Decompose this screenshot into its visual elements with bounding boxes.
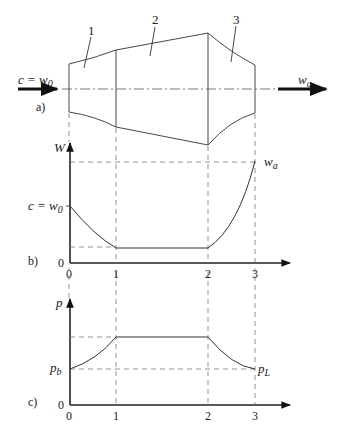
c-origin-label: 0 — [58, 398, 64, 412]
inlet-velocity-label: c = w0 — [18, 72, 53, 89]
section-label-2: 2 — [152, 12, 159, 27]
b-tick-3: 3 — [252, 267, 258, 281]
projection-lines — [69, 113, 255, 405]
wa-label: wa — [264, 154, 278, 171]
b-origin-label: 0 — [58, 256, 64, 270]
c-tick-0: 0 — [66, 409, 72, 423]
pb-label: pb — [49, 360, 62, 377]
panel-c-pressure-chart: p pb pL 0 c) 0 1 2 3 — [28, 295, 290, 423]
c-tick-3: 3 — [252, 409, 258, 423]
leader-1 — [84, 37, 91, 68]
duct-bottom-outline — [69, 112, 255, 145]
pressure-curve — [70, 337, 255, 369]
section-label-3: 3 — [233, 12, 240, 27]
velocity-curve — [70, 161, 255, 248]
panel-c-label: c) — [28, 395, 37, 409]
leader-2 — [150, 27, 155, 56]
pl-label: pL — [257, 361, 271, 378]
p-axis-label: p — [55, 295, 63, 310]
panel-a-duct: 1 2 3 c = w0 a) wa — [18, 12, 326, 145]
panel-b-label: b) — [28, 254, 38, 268]
c-tick-2: 2 — [205, 409, 211, 423]
duct-top-outline — [69, 33, 255, 65]
w-axis-label: W — [54, 140, 66, 155]
c-w0-label: c = w0 — [28, 198, 63, 215]
panel-a-label: a) — [36, 100, 45, 114]
leader-3 — [231, 26, 236, 62]
c-tick-1: 1 — [113, 409, 119, 423]
b-tick-1: 1 — [113, 267, 119, 281]
b-tick-0: 0 — [66, 267, 72, 281]
section-label-1: 1 — [88, 23, 95, 38]
b-tick-2: 2 — [205, 267, 211, 281]
diffuser-nozzle-diagram: 1 2 3 c = w0 a) wa W c = w0 wa 0 b) 0 1 … — [0, 0, 342, 436]
outlet-velocity-label: wa — [298, 72, 312, 89]
panel-b-velocity-chart: W c = w0 wa 0 b) 0 1 2 3 — [28, 140, 290, 281]
